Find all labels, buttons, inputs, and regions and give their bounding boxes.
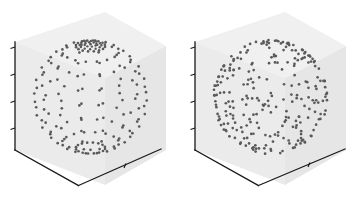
scatter-point <box>74 150 77 153</box>
scatter-point <box>137 107 140 110</box>
scatter-point <box>291 100 294 103</box>
scatter-point <box>87 50 90 53</box>
scatter-point <box>277 131 280 134</box>
panel-structured-lat-long-sphere[interactable] <box>0 0 181 200</box>
scatter-point <box>326 99 329 102</box>
scatter-point <box>274 61 277 64</box>
scatter-point <box>99 46 101 48</box>
scatter-point <box>252 69 255 72</box>
scatter-point <box>324 109 327 112</box>
scatter-point <box>112 135 115 138</box>
scatter-point <box>68 71 71 74</box>
scatter-point <box>277 134 280 137</box>
scatter-point <box>268 62 271 65</box>
scatter-point <box>277 40 280 43</box>
scatter-point <box>84 47 86 49</box>
scatter-point <box>311 99 314 102</box>
scatter-point <box>117 52 120 55</box>
scatter-point <box>298 115 301 118</box>
scatter-point <box>55 125 58 128</box>
axes3d-left <box>0 0 181 200</box>
scatter-point <box>286 42 289 45</box>
scatter-point <box>227 100 230 103</box>
scatter-point <box>315 123 318 126</box>
scatter-point <box>264 103 267 106</box>
scatter-point <box>81 87 84 90</box>
scatter-point <box>143 77 146 80</box>
scatter-point <box>287 139 290 142</box>
z-tick-2-right <box>191 74 196 76</box>
scatter-point <box>247 78 250 81</box>
scatter-point <box>227 122 230 125</box>
scatter-point <box>232 117 235 120</box>
scatter-point <box>57 65 60 68</box>
scatter-point <box>325 93 328 96</box>
scatter-point <box>104 132 107 135</box>
scatter-point <box>77 48 80 51</box>
scatter-point <box>117 47 120 50</box>
scatter-point <box>47 59 50 62</box>
scatter-point <box>66 121 69 124</box>
scatter-point <box>300 58 303 61</box>
scatter-point <box>63 138 66 141</box>
scatter-point <box>115 106 118 109</box>
scatter-point <box>258 76 261 79</box>
scatter-point <box>246 49 249 52</box>
scatter-point <box>134 70 137 73</box>
scatter-point <box>35 106 38 109</box>
scatter-point <box>281 68 284 71</box>
scatter-point <box>241 98 244 101</box>
scatter-point <box>314 85 317 88</box>
scatter-point <box>270 95 273 98</box>
scatter-point <box>83 73 86 76</box>
scatter-point <box>98 89 101 92</box>
scatter-point <box>56 78 59 81</box>
scatter-point <box>121 99 124 102</box>
scatter-point <box>268 46 271 49</box>
scatter-point <box>92 50 95 53</box>
figure-3d-sphere-sampling-comparison <box>0 0 361 200</box>
scatter-point <box>270 111 273 114</box>
scatter-point <box>307 96 310 99</box>
scatter-point <box>299 121 302 124</box>
scatter-point <box>66 148 69 151</box>
scatter-point <box>293 63 296 66</box>
scatter-point <box>92 152 95 155</box>
scatter-point <box>300 133 303 136</box>
scatter-point <box>224 69 227 72</box>
scatter-point <box>303 105 306 108</box>
scatter-point <box>282 49 285 52</box>
scatter-point <box>293 146 296 149</box>
scatter-point <box>97 142 100 145</box>
scatter-point <box>292 44 295 47</box>
scatter-point <box>60 107 63 110</box>
scatter-point <box>56 142 59 145</box>
scatter-point <box>301 49 304 52</box>
scatter-point <box>50 62 53 65</box>
scatter-point <box>113 56 116 59</box>
scatter-point <box>83 148 86 151</box>
scatter-point <box>297 53 300 56</box>
z-tick-4-left <box>11 128 16 130</box>
scatter-point <box>232 114 235 117</box>
scatter-point <box>322 80 325 83</box>
scatter-point <box>106 59 109 62</box>
scatter-point <box>213 94 216 97</box>
scatter-point <box>49 133 52 136</box>
scatter-point <box>255 113 258 116</box>
scatter-point <box>310 60 313 63</box>
scatter-point <box>118 64 121 67</box>
scatter-point <box>220 68 223 71</box>
scatter-point <box>309 55 312 58</box>
scatter-point <box>60 54 63 57</box>
scatter-point <box>319 79 322 82</box>
panel-uniform-random-sphere[interactable] <box>180 0 361 200</box>
scatter-point <box>246 137 249 140</box>
scatter-point <box>215 106 218 109</box>
scatter-point <box>102 116 105 119</box>
scatter-point <box>231 127 234 130</box>
scatter-point <box>228 67 231 70</box>
scatter-point <box>294 49 297 52</box>
scatter-point <box>76 75 79 78</box>
scatter-point <box>243 45 246 48</box>
